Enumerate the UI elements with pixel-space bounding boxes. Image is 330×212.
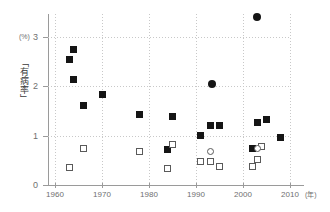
y-axis-tick-label: 3 [33, 33, 38, 42]
data-point-open-square [136, 148, 143, 155]
data-point-open-square [249, 163, 256, 170]
data-point-filled-square [197, 132, 204, 139]
data-point-filled-square [66, 56, 73, 63]
data-point-filled-square [254, 119, 261, 126]
y-axis-tick-label: 1 [33, 132, 38, 141]
data-point-open-square [254, 156, 261, 163]
data-point-open-square [164, 165, 171, 172]
data-point-filled-square [277, 134, 284, 141]
y-axis-tick-label: 2 [33, 82, 38, 91]
x-axis-tick-label: 1980 [140, 191, 158, 199]
data-point-open-square [169, 141, 176, 148]
x-axis-tick-label: 1970 [93, 191, 111, 199]
data-point-filled-square [263, 116, 270, 123]
gridline-vertical [290, 14, 291, 185]
gridline-vertical [149, 14, 150, 185]
gridline-horizontal [48, 86, 290, 87]
y-axis-title: 「有病率」 [15, 58, 29, 103]
y-axis-tick-label: 0 [33, 181, 38, 190]
data-point-open-square [66, 164, 73, 171]
data-point-open-square [207, 158, 214, 165]
gridline-vertical [55, 14, 56, 185]
data-point-filled-square [70, 76, 77, 83]
x-axis-tick-label: 2010 [281, 191, 299, 199]
data-point-filled-square [80, 102, 87, 109]
data-point-filled-square [99, 91, 106, 98]
data-point-filled-square [136, 111, 143, 118]
plot-area [48, 14, 298, 186]
data-point-filled-circle [253, 13, 261, 21]
x-axis-tick-label: 1990 [187, 191, 205, 199]
gridline-vertical [243, 14, 244, 185]
gridline-horizontal [48, 136, 290, 137]
x-axis-unit-label: (年) [305, 191, 317, 198]
x-axis-tick-label: 2000 [234, 191, 252, 199]
data-point-filled-square [70, 46, 77, 53]
data-point-open-circle [207, 148, 214, 155]
data-point-filled-square [216, 122, 223, 129]
prevalence-scatter-chart: (%) 「有病率」 (年) 0123 196019701980199020002… [0, 0, 330, 212]
data-point-open-square [216, 163, 223, 170]
x-axis-tick-label: 1960 [46, 191, 64, 199]
data-point-filled-square [207, 122, 214, 129]
data-point-open-square [80, 145, 87, 152]
gridline-vertical [102, 14, 103, 185]
gridline-horizontal [48, 37, 290, 38]
data-point-open-circle [254, 145, 261, 152]
y-axis-unit-label: (%) [19, 33, 30, 40]
data-point-filled-square [169, 113, 176, 120]
data-point-open-square [197, 158, 204, 165]
